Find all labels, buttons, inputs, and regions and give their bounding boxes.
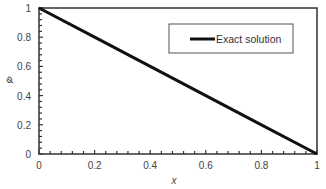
x-axis-tick-labels: 00.20.40.60.81: [36, 160, 320, 171]
x-tick-label: 0.8: [254, 160, 268, 171]
x-tick-label: 0.6: [199, 160, 213, 171]
y-tick-label: 0.8: [17, 32, 31, 43]
legend-label: Exact solution: [216, 33, 282, 45]
y-axis-tick-labels: 00.20.40.60.81: [17, 3, 31, 160]
y-tick-label: 0.2: [17, 120, 31, 131]
y-tick-label: 0: [25, 149, 31, 160]
y-tick-label: 0.4: [17, 91, 31, 102]
x-axis-label: x: [171, 175, 178, 186]
x-tick-label: 0.4: [143, 160, 157, 171]
y-tick-label: 0.6: [17, 61, 31, 72]
legend: Exact solution: [169, 24, 293, 53]
y-tick-label: 1: [25, 3, 31, 14]
y-axis-label: φ: [2, 73, 15, 85]
x-tick-label: 0.2: [88, 160, 102, 171]
x-tick-label: 0: [36, 160, 42, 171]
x-tick-label: 1: [314, 160, 320, 171]
chart: 00.20.40.60.81 00.20.40.60.81 φ x Exact …: [0, 0, 326, 189]
